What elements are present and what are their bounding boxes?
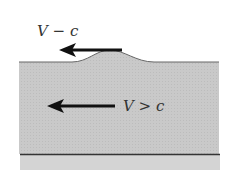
water-body	[19, 50, 219, 154]
surface-speed-label: V − c	[37, 22, 78, 40]
flow-condition-label: V > c	[123, 97, 164, 115]
channel-bed	[20, 155, 220, 170]
